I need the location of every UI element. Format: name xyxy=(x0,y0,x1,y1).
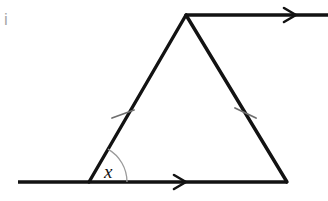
geometry-diagram: i x xyxy=(0,0,328,201)
angle-label-x: x xyxy=(103,161,113,182)
triangle-left-side xyxy=(89,15,186,182)
geometry-figure-svg: x xyxy=(0,0,328,201)
left-side-congruence-tick-icon xyxy=(112,110,134,118)
triangle-right-side xyxy=(186,15,287,182)
corner-letter-label: i xyxy=(4,8,18,32)
